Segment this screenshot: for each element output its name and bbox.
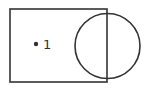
venn-diagram: 1 bbox=[0, 0, 152, 88]
rectangle-set bbox=[10, 9, 107, 82]
point-dot bbox=[34, 42, 38, 46]
point-label: 1 bbox=[43, 37, 51, 52]
